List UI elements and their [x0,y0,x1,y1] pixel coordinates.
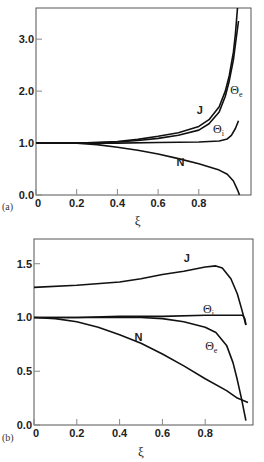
series-label: J [197,104,203,116]
series-label: Θi [213,122,225,138]
y-tick-label: 0.5 [17,365,32,377]
y-tick-label: 0.0 [17,419,32,431]
x-tick-label: 0 [35,197,41,209]
y-tick-label: 1.5 [17,258,32,270]
figure: 00.20.40.60.80.01.02.03.0(a)ξJΘeΘiN 00.2… [0,0,264,462]
series-label: Θe [205,339,218,355]
series-label: Θi [203,302,215,318]
series-label: N [135,331,143,343]
series-line-J [36,8,238,143]
series-label: J [184,252,190,264]
x-tick-label: 0.2 [69,427,84,439]
y-tick-label: 1.0 [19,137,34,149]
x-axis-label: ξ [138,444,144,459]
chart-panel-b: 00.20.40.60.80.00.51.01.5(b)ξJΘiΘeN [2,239,253,459]
x-tick-label: 0.4 [112,427,128,439]
x-tick-label: 0.2 [69,197,84,209]
chart-panel-a: 00.20.40.60.80.01.02.03.0(a)ξJΘeΘiN [2,8,251,228]
x-tick-label: 0 [33,427,39,439]
series-line-Θe [36,21,239,143]
y-tick-label: 2.0 [19,85,34,97]
series-line-N [36,143,240,195]
x-tick-label: 0.8 [198,427,213,439]
x-tick-label: 0.8 [191,197,206,209]
y-tick-label: 3.0 [19,33,34,45]
series-label: N [176,156,184,168]
series-label: Θe [230,83,243,99]
y-tick-label: 1.0 [17,311,32,323]
y-tick-label: 0.0 [19,189,34,201]
x-axis-label: ξ [135,213,141,228]
panel-label: (b) [2,432,14,444]
x-tick-label: 0.4 [110,197,126,209]
x-tick-label: 0.6 [155,427,170,439]
panel-label: (a) [2,201,13,213]
plot-frame [36,8,251,195]
x-tick-label: 0.6 [150,197,165,209]
